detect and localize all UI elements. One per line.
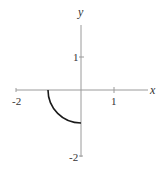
y-tick-label-neg2: -2	[69, 151, 78, 163]
quarter-circle-curve	[48, 90, 81, 123]
y-tick-label-1: 1	[73, 51, 79, 63]
x-axis-label: x	[149, 83, 156, 97]
y-axis-label: y	[77, 5, 84, 19]
x-tick-label-1: 1	[111, 95, 117, 107]
chart-plot: -2 1 1 -2 x y	[0, 0, 160, 169]
x-tick-label-neg2: -2	[12, 95, 21, 107]
